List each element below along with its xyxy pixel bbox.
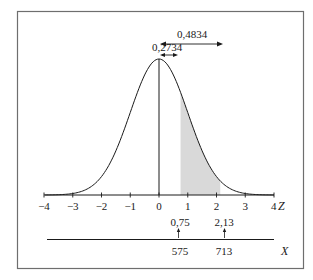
- z-tick-label: −1: [124, 200, 136, 212]
- z-axis-label: Z: [278, 199, 285, 213]
- arrow-right-icon: [217, 42, 223, 47]
- z-tick-label: 2: [214, 200, 220, 212]
- z1-label: 0,75: [170, 216, 190, 228]
- z2-label: 2,13: [214, 216, 234, 228]
- normal-distribution-chart: −4−3−2−101234 Z 0,4834 0,2734 0,75 2,13 …: [0, 0, 313, 280]
- arrow-right-icon: [173, 53, 178, 57]
- z-tick-label: −2: [96, 200, 108, 212]
- z-tick-label: 1: [185, 200, 191, 212]
- arrow-up-icon: [177, 228, 180, 232]
- z-tick-label: 4: [271, 200, 277, 212]
- arrow-left-icon: [160, 53, 165, 57]
- arrow-up-icon: [223, 228, 226, 232]
- z-tick-label: 3: [243, 200, 249, 212]
- x2-label: 713: [216, 245, 233, 257]
- x-axis-label: X: [280, 244, 289, 258]
- area-total-label: 0,4834: [177, 28, 208, 40]
- z-tick-label: −3: [67, 200, 79, 212]
- z-tick-label: −4: [38, 200, 50, 212]
- x1-label: 575: [172, 245, 189, 257]
- area-partial-annotation: 0,2734: [152, 41, 183, 57]
- area-partial-label: 0,2734: [152, 41, 183, 53]
- z-tick-label: 0: [156, 200, 162, 212]
